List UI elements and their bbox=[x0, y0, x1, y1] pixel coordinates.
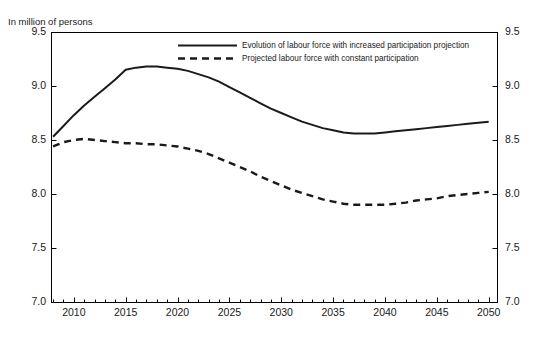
y-axis-tick-label-left: 7.5 bbox=[31, 242, 46, 253]
x-axis-tick-label: 2040 bbox=[373, 306, 396, 318]
x-axis-tick-label: 2030 bbox=[270, 306, 293, 318]
legend-swatches bbox=[178, 46, 237, 59]
y-axis-tick-label-left: 9.5 bbox=[31, 26, 46, 37]
y-axis-tick-label-left: 7.0 bbox=[31, 296, 46, 307]
y-axis-tick-label-left: 8.0 bbox=[31, 188, 46, 199]
series-line-1 bbox=[53, 139, 489, 205]
x-axis-tick-label: 2020 bbox=[166, 306, 189, 318]
y-axis-tick-label-right: 8.5 bbox=[505, 134, 520, 145]
y-axis-tick-label-right: 8.0 bbox=[505, 188, 520, 199]
y-axis-tick-label-right: 9.5 bbox=[505, 26, 520, 37]
legend-item-label-solid: Evolution of labour force with increased… bbox=[242, 41, 469, 51]
x-axis-tick-label: 2015 bbox=[114, 306, 137, 318]
axis-ticks bbox=[52, 87, 498, 303]
y-axis-tick-label-right: 7.5 bbox=[505, 242, 520, 253]
axis-unit-label: In million of persons bbox=[8, 16, 92, 27]
x-axis-tick-label: 2050 bbox=[477, 306, 500, 318]
y-axis-tick-label-left: 9.0 bbox=[31, 80, 46, 91]
legend-item-label-dashed: Projected labour force with constant par… bbox=[242, 54, 419, 64]
x-axis-tick-label: 2025 bbox=[218, 306, 241, 318]
y-axis-tick-label-left: 8.5 bbox=[31, 134, 46, 145]
x-axis-tick-label: 2035 bbox=[321, 306, 344, 318]
y-axis-tick-label-right: 7.0 bbox=[505, 296, 520, 307]
series-lines bbox=[53, 67, 489, 205]
x-axis-tick-label: 2010 bbox=[62, 306, 85, 318]
series-line-0 bbox=[53, 67, 489, 137]
y-axis-tick-label-right: 9.0 bbox=[505, 80, 520, 91]
plot-frame bbox=[52, 33, 498, 303]
x-axis-tick-label: 2045 bbox=[425, 306, 448, 318]
chart-container: In million of persons 9.59.08.58.07.57.0… bbox=[0, 0, 539, 337]
